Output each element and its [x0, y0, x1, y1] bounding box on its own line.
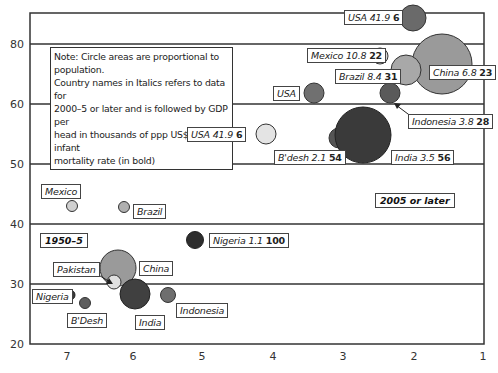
bubble-indonesia-early [161, 288, 176, 303]
period-label-early: 1950–5 [40, 233, 88, 248]
label-india-early: India [135, 315, 165, 330]
gdp-value: 2.1 [312, 152, 327, 163]
y-tick-label: 80 [10, 38, 24, 51]
label-mexico-late: Mexico 10.8 22 [307, 48, 386, 63]
country-name: B'Desh [71, 315, 103, 326]
imr-value: 22 [369, 50, 382, 61]
bubble-brazil-early [119, 202, 130, 213]
bubble-usa-late [400, 5, 426, 31]
country-name: Brazil [339, 71, 364, 82]
bubble-bdesh-early [80, 298, 91, 309]
bubble-india-early [120, 279, 150, 309]
y-tick-label: 20 [10, 338, 24, 351]
label-pakistan-early: Pakistan [53, 262, 100, 277]
country-name: China [143, 263, 169, 274]
bubble-usa-mid [304, 83, 324, 103]
x-tick-label: 5 [199, 350, 206, 363]
y-tick-label: 50 [10, 158, 24, 171]
imr-value: 6 [393, 12, 399, 23]
bubble-nigeria-mid [187, 232, 204, 249]
label-nigeria-early: Nigeria [32, 289, 73, 304]
label-mexico-early: Mexico [41, 184, 81, 199]
country-name: India [139, 317, 161, 328]
imr-value: 23 [479, 67, 492, 78]
country-name: Indonesia [180, 305, 224, 316]
label-usa-late: USA 41.9 6 [344, 10, 403, 25]
gdp-value: 8.4 [367, 71, 382, 82]
country-name: Nigeria [36, 291, 69, 302]
country-name: China [433, 67, 459, 78]
country-name: Indonesia [412, 116, 456, 127]
label-nigeria-mid: Nigeria 1.1 100 [209, 233, 289, 248]
x-tick-label: 3 [340, 350, 347, 363]
label-indonesia-early: Indonesia [176, 303, 228, 318]
country-name: Mexico [311, 50, 343, 61]
bubble-usa-early [256, 124, 276, 144]
label-indonesia-late: Indonesia 3.8 28 [408, 114, 493, 129]
note-line: 2000–5 or later and is followed by GDP p… [54, 102, 229, 128]
imr-value: 100 [266, 235, 285, 246]
label-usa-mid: USA [273, 86, 300, 101]
y-tick-label: 30 [10, 278, 24, 291]
gdp-value: 41.9 [213, 129, 233, 140]
country-name: India [395, 152, 417, 163]
period-label-late: 2005 or later [375, 193, 455, 208]
note-line: mortality rate (in bold) [54, 154, 229, 167]
x-tick-label: 7 [64, 350, 71, 363]
x-tick-label: 1 [480, 350, 487, 363]
gdp-value: 6.8 [462, 67, 477, 78]
label-bdesh-early: B'Desh [67, 313, 107, 328]
note-line: Note: Circle areas are proportional to [54, 50, 229, 63]
x-tick-label: 4 [270, 350, 277, 363]
chart-note: Note: Circle areas are proportional to p… [50, 47, 233, 170]
note-line: population. [54, 63, 229, 76]
label-china-early: China [139, 261, 173, 276]
imr-value: 28 [476, 116, 489, 127]
label-brazil-late: Brazil 8.4 31 [335, 69, 401, 84]
x-tick-label: 2 [411, 350, 418, 363]
gdp-value: 3.5 [420, 152, 435, 163]
gdp-value: 10.8 [346, 50, 366, 61]
country-name: B'desh [278, 152, 309, 163]
bubble-mexico-early [67, 201, 78, 212]
imr-value: 56 [438, 152, 451, 163]
label-bdesh-late: B'desh 2.1 54 [274, 150, 346, 165]
country-name: USA [348, 12, 367, 23]
note-line: Country names in Italics refers to data … [54, 76, 229, 102]
y-tick-label: 40 [10, 218, 24, 231]
country-name: USA [191, 129, 210, 140]
y-tick-label: 60 [10, 98, 24, 111]
gdp-value: 1.1 [248, 235, 263, 246]
bubble-china-late [412, 34, 472, 94]
label-india-late: India 3.5 56 [391, 150, 454, 165]
imr-value: 31 [384, 71, 397, 82]
country-name: Mexico [45, 186, 77, 197]
label-china-late: China 6.8 23 [429, 65, 496, 80]
imr-value: 54 [329, 152, 342, 163]
country-name: Pakistan [57, 264, 96, 275]
country-name: Brazil [137, 206, 162, 217]
gdp-value: 3.8 [459, 116, 474, 127]
label-usa-early: USA 41.9 6 [187, 127, 246, 142]
label-brazil-early: Brazil [133, 204, 166, 219]
country-name: USA [277, 88, 296, 99]
imr-value: 6 [236, 129, 242, 140]
x-tick-label: 6 [130, 350, 137, 363]
bubble-indonesia-late [380, 83, 400, 103]
gdp-value: 41.9 [370, 12, 390, 23]
country-name: Nigeria [213, 235, 246, 246]
